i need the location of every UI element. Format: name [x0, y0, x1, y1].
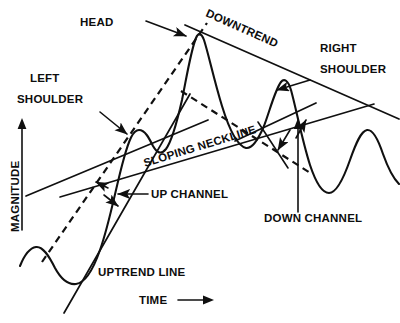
- label-downtrend: DOWNTREND: [204, 7, 280, 50]
- label-down-channel: DOWN CHANNEL: [264, 212, 362, 224]
- head-leader-line: [146, 21, 186, 36]
- x-axis-label: TIME: [139, 294, 167, 306]
- up-channel-arrow-lower: [104, 195, 118, 206]
- up-channel-leader: [96, 182, 148, 206]
- label-uptrend-line: UPTREND LINE: [98, 266, 186, 278]
- down-channel-leader-arrowhead: [294, 118, 302, 129]
- label-up-channel: UP CHANNEL: [151, 188, 228, 200]
- head-leader: [146, 21, 186, 36]
- y-axis-label: MAGNITUDE: [9, 160, 21, 232]
- label-right-shoulder-line2: SHOULDER: [320, 63, 387, 75]
- chart-pattern-diagram: MAGNITUDE TIME: [0, 0, 400, 323]
- neckline-pointer: [258, 122, 288, 168]
- label-right-shoulder-line1: RIGHT: [320, 42, 357, 54]
- label-left-shoulder-line1: LEFT: [30, 72, 60, 84]
- down-channel-arrow-down: [278, 130, 290, 150]
- x-axis-time: TIME: [139, 294, 214, 306]
- label-left-shoulder-line2: SHOULDER: [17, 93, 84, 105]
- magnitude-axis-arrowhead: [18, 118, 27, 129]
- diagram-canvas: MAGNITUDE TIME: [0, 0, 400, 323]
- steep-uptrend-dashed-line: [42, 23, 207, 262]
- y-axis-magnitude: MAGNITUDE: [9, 118, 26, 232]
- label-head: HEAD: [80, 16, 113, 28]
- left-shoulder-leader-line: [100, 112, 127, 134]
- left-shoulder-leader: [100, 112, 127, 134]
- neckline-pointer-line: [258, 122, 288, 168]
- time-axis-arrowhead: [203, 296, 214, 305]
